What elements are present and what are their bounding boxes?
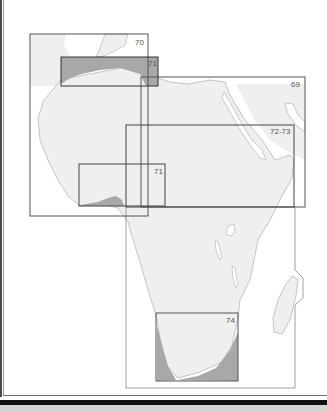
label-74: 74 [226, 316, 235, 325]
italy-land [96, 34, 128, 57]
label-70: 70 [135, 38, 144, 47]
frame-bottom-line [3, 395, 327, 396]
label-71-north: 71 [148, 59, 157, 68]
label-71-south: 71 [154, 167, 163, 176]
africa-map [0, 0, 327, 412]
label-72-73: 72-73 [270, 127, 290, 136]
bottom-strip [0, 405, 327, 412]
label-69: 69 [291, 80, 300, 89]
madagascar [273, 276, 298, 334]
